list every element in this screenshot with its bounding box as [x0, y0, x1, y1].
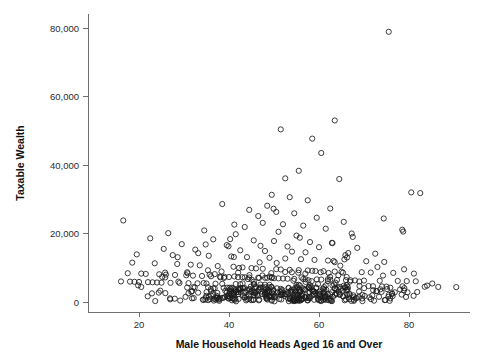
- scatter-point: [176, 279, 181, 284]
- scatter-point: [341, 219, 346, 224]
- scatter-point: [411, 293, 416, 298]
- scatter-point: [232, 274, 237, 279]
- scatter-point: [228, 236, 233, 241]
- scatter-point: [265, 203, 270, 208]
- scatter-point: [289, 249, 294, 254]
- scatter-point: [256, 213, 261, 218]
- scatter-point: [380, 273, 385, 278]
- scatter-point: [328, 206, 333, 211]
- scatter-point: [211, 237, 216, 242]
- scatter-point: [233, 232, 238, 237]
- x-tick-label: 20: [134, 319, 145, 330]
- scatter-point: [238, 248, 243, 253]
- scatter-point: [292, 211, 297, 216]
- scatter-point: [371, 298, 376, 303]
- scatter-point: [251, 238, 256, 243]
- scatter-point: [391, 270, 396, 275]
- scatter-point: [303, 250, 308, 255]
- scatter-point: [202, 228, 207, 233]
- scatter-point: [285, 244, 290, 249]
- scatter-point: [325, 258, 330, 263]
- scatter-point: [332, 118, 337, 123]
- scatter-point: [280, 222, 285, 227]
- scatter-point: [242, 224, 247, 229]
- scatter-point: [409, 190, 414, 195]
- scatter-point: [199, 273, 204, 278]
- scatter-point: [310, 136, 315, 141]
- scatter-point: [262, 248, 267, 253]
- scatter-point: [260, 266, 265, 271]
- scatter-point: [244, 255, 249, 260]
- scatter-point: [337, 176, 342, 181]
- scatter-chart-figure: 020,00040,00060,00080,00020406080Male Ho…: [0, 0, 499, 363]
- scatter-point: [316, 245, 321, 250]
- scatter-point: [349, 231, 354, 236]
- scatter-point: [401, 229, 406, 234]
- scatter-point: [283, 256, 288, 261]
- scatter-point: [125, 271, 130, 276]
- scatter-point: [314, 215, 319, 220]
- scatter-point: [436, 284, 441, 289]
- y-tick-label: 0: [74, 297, 79, 308]
- scatter-point: [139, 284, 144, 289]
- scatter-point: [283, 269, 288, 274]
- scatter-point: [361, 278, 366, 283]
- scatter-point: [206, 253, 211, 258]
- scatter-point: [454, 285, 459, 290]
- scatter-point: [258, 243, 263, 248]
- scatter-point: [188, 262, 193, 267]
- scatter-point: [226, 244, 231, 249]
- scatter-point: [373, 251, 378, 256]
- scatter-point: [196, 290, 201, 295]
- scatter-point: [381, 216, 386, 221]
- scatter-point: [257, 260, 262, 265]
- scatter-point: [312, 257, 317, 262]
- scatter-point: [350, 234, 355, 239]
- scatter-point: [377, 278, 382, 283]
- scatter-point: [196, 251, 201, 256]
- scatter-point: [271, 238, 276, 243]
- scatter-point: [386, 29, 391, 34]
- scatter-point: [168, 280, 173, 285]
- scatter-point: [411, 271, 416, 276]
- scatter-point: [193, 247, 198, 252]
- scatter-point: [355, 245, 360, 250]
- scatter-point: [166, 231, 171, 236]
- scatter-point: [203, 242, 208, 247]
- scatter-point: [161, 246, 166, 251]
- scatter-point: [359, 270, 364, 275]
- scatter-point: [121, 218, 126, 223]
- scatter-point: [336, 273, 341, 278]
- scatter-point: [331, 258, 336, 263]
- scatter-point: [375, 264, 380, 269]
- scatter-point: [172, 272, 177, 277]
- scatter-point: [231, 264, 236, 269]
- scatter-point: [344, 274, 349, 279]
- plot-svg: 020,00040,00060,00080,00020406080Male Ho…: [0, 0, 499, 363]
- scatter-point: [197, 263, 202, 268]
- scatter-point: [418, 190, 423, 195]
- scatter-point: [278, 127, 283, 132]
- scatter-point: [175, 255, 180, 260]
- scatter-point: [130, 260, 135, 265]
- scatter-point: [136, 283, 141, 288]
- scatter-point: [413, 279, 418, 284]
- scatter-point: [296, 168, 301, 173]
- scatter-point: [215, 263, 220, 268]
- scatter-point: [153, 298, 158, 303]
- scatter-point: [163, 291, 168, 296]
- scatter-point: [323, 226, 328, 231]
- scatter-point: [260, 220, 265, 225]
- scatter-point: [148, 236, 153, 241]
- y-tick-label: 80,000: [50, 23, 79, 34]
- scatter-point: [287, 195, 292, 200]
- scatter-point: [179, 242, 184, 247]
- scatter-point: [402, 267, 407, 272]
- scatter-point: [338, 263, 343, 268]
- scatter-point: [152, 261, 157, 266]
- scatter-point: [368, 270, 373, 275]
- y-tick-label: 60,000: [50, 91, 79, 102]
- x-tick-label: 60: [314, 319, 325, 330]
- scatter-point: [395, 278, 400, 283]
- scatter-point: [190, 273, 195, 278]
